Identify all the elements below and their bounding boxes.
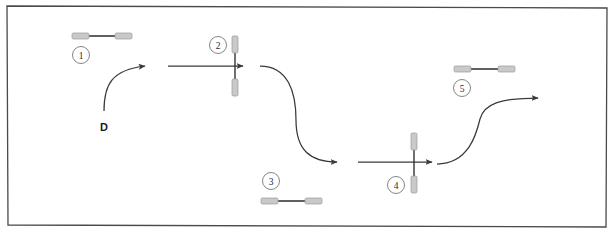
d-label: D <box>100 121 108 133</box>
marker-3-icon-group <box>261 198 322 204</box>
marker-badge-label: 4 <box>394 181 399 191</box>
marker-badge-4[interactable]: 4 <box>388 177 405 194</box>
marker-badge-label: 3 <box>269 177 274 187</box>
dumbbell-horizontal-icon-right-block <box>115 33 132 39</box>
arrow-s-curve-down-to-lower-path <box>260 66 337 162</box>
diagram-svg: D <box>0 0 614 239</box>
dumbbell-horizontal-icon-left-block <box>72 33 89 39</box>
arrow-s-curve-up-to-exit <box>437 98 538 164</box>
marker-badge-5[interactable]: 5 <box>454 80 471 97</box>
marker-badge-3[interactable]: 3 <box>263 173 280 190</box>
diagram-canvas: D <box>0 0 614 239</box>
dumbbell-vertical-icon-bottom-block <box>232 79 238 96</box>
curve-path <box>104 66 145 111</box>
marker-badge-label: 5 <box>460 84 465 94</box>
dumbbell-horizontal-icon-right-block <box>305 198 322 204</box>
curve-path <box>437 98 538 164</box>
dumbbell-horizontal-icon-left-block <box>454 66 471 72</box>
marker-badge-1[interactable]: 1 <box>73 47 90 64</box>
dumbbell-vertical-icon-top-block <box>232 36 238 53</box>
marker-badge-label: 1 <box>79 51 84 61</box>
dumbbell-horizontal-icon-left-block <box>261 198 278 204</box>
marker-1-icon-group <box>72 33 132 39</box>
curve-path <box>260 66 337 162</box>
marker-5-icon-group <box>454 66 515 72</box>
dumbbell-horizontal-icon-right-block <box>498 66 515 72</box>
dumbbell-vertical-icon-top-block <box>411 133 417 150</box>
marker-badge-2[interactable]: 2 <box>210 37 227 54</box>
arrow-curve-d-to-stage2 <box>104 66 145 111</box>
marker-badge-label: 2 <box>216 41 221 51</box>
frame-border <box>7 6 607 227</box>
dumbbell-vertical-icon-bottom-block <box>411 176 417 193</box>
marker-4-icon-group <box>411 133 417 193</box>
